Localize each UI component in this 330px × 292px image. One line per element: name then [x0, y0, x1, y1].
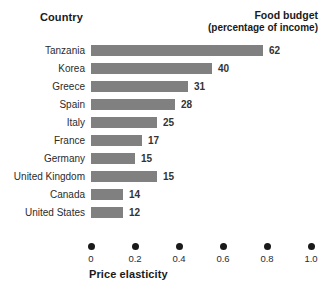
table-row: France17 — [0, 133, 330, 151]
x-axis-tick-label: 0.4 — [172, 253, 185, 264]
table-row: Korea40 — [0, 61, 330, 79]
axis-dot-marker — [132, 243, 139, 250]
food-budget-price-elasticity-chart: Country Food budget (percentage of incom… — [0, 0, 330, 292]
bar — [91, 63, 212, 74]
bar — [91, 171, 157, 182]
table-row: Tanzania62 — [0, 43, 330, 61]
table-row: United States12 — [0, 205, 330, 223]
bar — [91, 117, 157, 128]
country-label: Italy — [0, 117, 85, 128]
bar-rows: Tanzania62Korea40Greece31Spain28Italy25F… — [0, 43, 330, 223]
country-label: France — [0, 135, 85, 146]
bar-value-label: 17 — [148, 135, 159, 146]
axis-dot-marker — [220, 243, 227, 250]
table-row: Greece31 — [0, 79, 330, 97]
x-axis-tick-label: 0.8 — [260, 253, 273, 264]
axis-dot-marker — [176, 243, 183, 250]
bar — [91, 153, 135, 164]
country-label: Tanzania — [0, 45, 85, 56]
bar — [91, 99, 175, 110]
bar-value-label: 15 — [163, 171, 174, 182]
table-row: Canada14 — [0, 187, 330, 205]
bar-value-label: 28 — [181, 99, 192, 110]
column-header-food-budget-line2: (percentage of income) — [208, 22, 318, 35]
chart-header: Country Food budget (percentage of incom… — [0, 9, 330, 41]
country-label: Greece — [0, 81, 85, 92]
axis-dot-marker — [88, 243, 95, 250]
x-axis: 00.20.40.60.81.0 — [0, 243, 330, 271]
bar — [91, 189, 123, 200]
bar-value-label: 25 — [163, 117, 174, 128]
table-row: Spain28 — [0, 97, 330, 115]
country-label: Spain — [0, 99, 85, 110]
bar-value-label: 12 — [129, 207, 140, 218]
country-label: Canada — [0, 189, 85, 200]
bar-value-label: 31 — [194, 81, 205, 92]
bar — [91, 81, 188, 92]
bar-value-label: 62 — [269, 45, 280, 56]
table-row: United Kingdom15 — [0, 169, 330, 187]
axis-dot-marker — [264, 243, 271, 250]
column-header-country: Country — [40, 11, 83, 23]
bar — [91, 45, 263, 56]
bar — [91, 135, 142, 146]
x-axis-tick-label: 0.2 — [128, 253, 141, 264]
x-axis-title: Price elasticity — [89, 268, 168, 280]
bar — [91, 207, 123, 218]
bar-value-label: 14 — [129, 189, 140, 200]
x-axis-tick-label: 0 — [88, 253, 93, 264]
country-label: Germany — [0, 153, 85, 164]
table-row: Italy25 — [0, 115, 330, 133]
column-header-food-budget: Food budget (percentage of income) — [208, 9, 318, 34]
bar-value-label: 15 — [141, 153, 152, 164]
table-row: Germany15 — [0, 151, 330, 169]
axis-dot-marker — [308, 243, 315, 250]
country-label: Korea — [0, 63, 85, 74]
country-label: United Kingdom — [0, 171, 85, 182]
country-label: United States — [0, 207, 85, 218]
x-axis-tick-label: 0.6 — [216, 253, 229, 264]
bar-value-label: 40 — [218, 63, 229, 74]
column-header-food-budget-line1: Food budget — [254, 9, 318, 21]
x-axis-tick-label: 1.0 — [304, 253, 317, 264]
